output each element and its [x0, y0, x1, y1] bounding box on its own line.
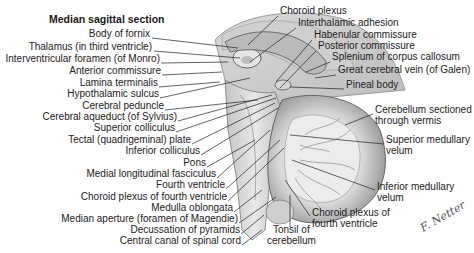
label-superior-colliculus: Superior colliculus: [94, 122, 175, 133]
label-body-of-fornix: Body of fornix: [89, 28, 150, 39]
label-fourth-ventricle: Fourth ventricle: [156, 179, 225, 190]
label-pons: Pons: [183, 157, 206, 168]
diagram-title: Median sagittal section: [49, 13, 165, 25]
label-decussation-of-pyramids: Decussation of pyramids: [131, 224, 241, 235]
diagram-stage: Median sagittal section Body of fornix T…: [0, 0, 474, 253]
label-habenular-commissure: Habenular commissure: [314, 29, 417, 40]
label-median-aperture: Median aperture (foramen of Magendie): [61, 213, 238, 224]
label-choroid-plexus-of: Choroid plexus of: [312, 207, 390, 218]
label-choroid-plexus: Choroid plexus: [280, 5, 347, 16]
label-choroid-plexus-fourth-ventricle: Choroid plexus of fourth ventricle: [81, 191, 227, 202]
label-cerebellum-sectioned-2: through vermis: [375, 115, 441, 126]
label-superior-medullary-velum-2: velum: [386, 145, 413, 156]
label-interventricular-foramen: Interventricular foramen (of Monro): [5, 53, 160, 64]
label-hypothalamic-sulcus: Hypothalamic sulcus: [67, 88, 159, 99]
label-superior-medullary-velum: Superior medullary: [386, 134, 470, 145]
label-central-canal: Central canal of spinal cord: [120, 235, 241, 246]
label-inferior-medullary-velum-2: velum: [377, 192, 404, 203]
label-pineal-body: Pineal body: [346, 79, 398, 90]
label-tonsil-of: Tonsil of: [273, 224, 310, 235]
label-cerebellum-sectioned: Cerebellum sectioned: [375, 104, 472, 115]
label-inferior-colliculus: Inferior colliculus: [126, 145, 200, 156]
label-medulla-oblongata: Medulla oblongata: [151, 202, 233, 213]
label-splenium: Splenium of corpus callosum: [332, 51, 460, 62]
label-thalamus: Thalamus (in third ventricle): [29, 41, 152, 52]
label-interthalamic-adhesion: Interthalamic adhesion: [298, 17, 399, 28]
label-cerebral-peduncle: Cerebral peduncle: [82, 100, 164, 111]
label-great-cerebral-vein: Great cerebral vein (of Galen): [338, 64, 470, 75]
label-medial-longitudinal-fasciculus: Medial longitudinal fasciculus: [86, 168, 216, 179]
label-tectal-plate: Tectal (quadrigeminal) plate: [68, 134, 191, 145]
label-choroid-plexus-of-2: fourth ventricle: [312, 218, 378, 229]
label-posterior-commissure: Posterior commissure: [318, 40, 415, 51]
label-inferior-medullary-velum: Inferior medullary: [377, 181, 454, 192]
label-tonsil-of-2: cerebellum: [267, 235, 316, 246]
label-cerebral-aqueduct: Cerebral aqueduct (of Sylvius): [42, 111, 177, 122]
label-anterior-commissure: Anterior commissure: [69, 65, 161, 76]
label-lamina-terminalis: Lamina terminalis: [80, 77, 158, 88]
